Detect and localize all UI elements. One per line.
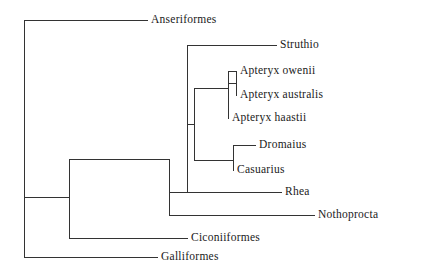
tip-label-apteryx-australis: Apteryx australis: [240, 89, 323, 101]
phylogenetic-tree-figure: AnseriformesStruthioApteryx oweniiAptery…: [0, 0, 422, 280]
tip-label-struthio: Struthio: [280, 39, 319, 51]
tip-label-rhea: Rhea: [285, 186, 310, 198]
tip-label-nothoprocta: Nothoprocta: [318, 209, 378, 221]
tip-label-anseriformes: Anseriformes: [151, 14, 217, 26]
tip-label-dromaius: Dromaius: [259, 139, 306, 151]
tip-label-apteryx-owenii: Apteryx owenii: [240, 65, 315, 77]
tip-label-ciconiiformes: Ciconiiformes: [191, 232, 260, 244]
tip-label-galliformes: Galliformes: [161, 251, 219, 263]
tip-label-casuarius: Casuarius: [237, 164, 285, 176]
tip-label-apteryx-haastii: Apteryx haastii: [232, 112, 306, 124]
